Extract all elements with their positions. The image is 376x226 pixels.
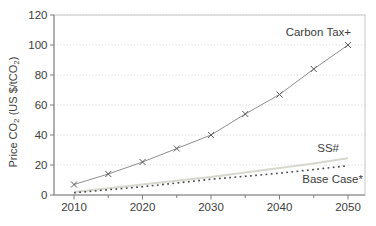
series-label-base-case: Base Case* (302, 173, 363, 185)
x-marker (208, 132, 214, 138)
x-tick-label: 2010 (61, 201, 87, 213)
y-tick-label: 40 (35, 129, 48, 141)
series-label-carbon-tax: Carbon Tax+ (286, 26, 351, 38)
x-marker (277, 92, 283, 98)
x-tick-label: 2050 (335, 201, 361, 213)
x-marker (242, 111, 248, 117)
x-tick-label: 2040 (267, 201, 293, 213)
series-label-ss: SS# (317, 142, 339, 154)
y-tick-label: 120 (28, 9, 47, 21)
x-marker (71, 182, 77, 188)
x-marker (140, 159, 146, 165)
y-tick-label: 0 (41, 189, 47, 201)
x-marker (174, 146, 180, 152)
y-tick-label: 20 (35, 159, 48, 171)
y-tick-label: 60 (35, 99, 48, 111)
y-tick-label: 80 (35, 69, 48, 81)
x-tick-label: 2030 (198, 201, 224, 213)
y-axis-title: Price CO2 (US $/tCO2) (5, 32, 21, 192)
x-marker (311, 66, 317, 72)
y-tick-label: 100 (28, 39, 47, 51)
x-tick-label: 2020 (130, 201, 156, 213)
price-co2-chart-figure: 02040608010012020102020203020402050 Pric… (0, 0, 376, 226)
plot-border (54, 15, 365, 195)
x-marker (105, 171, 111, 177)
